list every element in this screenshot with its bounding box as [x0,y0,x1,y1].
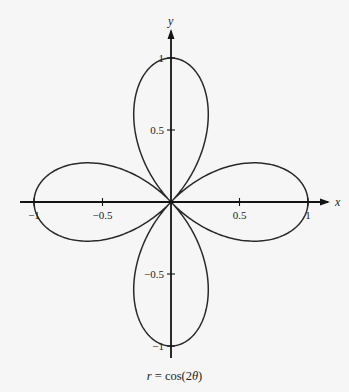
x-tick-label: 0.5 [233,209,247,221]
y-tick-label: 1 [159,52,165,64]
x-tick-label: −1 [28,209,40,221]
caption-close-paren: ) [198,369,202,383]
y-axis-label: y [167,14,174,28]
x-tick-label: −0.5 [93,209,113,221]
x-axis-label: x [334,195,341,209]
caption-equals-cos: = cos(2 [152,369,192,383]
x-tick-label: 1 [305,209,311,221]
y-tick-label: −0.5 [144,268,164,280]
chart-caption: r = cos(2θ) [0,369,349,384]
plot-area: −1−0.50.5110.5−0.5−1 x y [0,0,349,392]
polar-rose-figure: −1−0.50.5110.5−0.5−1 x y r = cos(2θ) [0,0,349,392]
axes [20,31,328,358]
y-tick-label: 0.5 [150,124,164,136]
y-tick-label: −1 [152,340,164,352]
